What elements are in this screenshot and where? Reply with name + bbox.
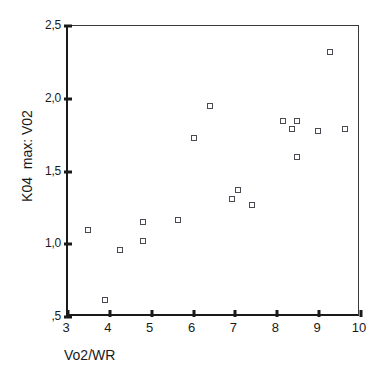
data-point <box>140 238 146 244</box>
data-point <box>175 217 181 223</box>
y-tick-label: 1,0 <box>45 236 61 250</box>
y-tick-mark <box>64 97 72 100</box>
x-tick-mark <box>108 310 111 317</box>
plot-area <box>66 25 359 316</box>
data-point <box>289 126 295 132</box>
x-tick-label: 10 <box>352 320 366 335</box>
data-point <box>140 219 146 225</box>
y-tick-label: 1,5 <box>45 164 61 178</box>
x-tick-label: 7 <box>230 320 237 335</box>
x-tick-label: 3 <box>62 320 69 335</box>
x-tick-mark <box>150 310 153 317</box>
data-point <box>294 154 300 160</box>
x-tick-mark <box>360 310 363 317</box>
x-axis-tick-labels: 345678910 <box>66 320 359 338</box>
data-point <box>249 202 255 208</box>
data-point <box>191 135 197 141</box>
scatter-plot-figure: ,51,01,52,02,5 345678910 K04 max: V02 Vo… <box>0 0 381 386</box>
x-tick-label: 5 <box>146 320 153 335</box>
y-tick-mark <box>64 170 72 173</box>
data-point <box>327 49 333 55</box>
y-axis-title: K04 max: V02 <box>19 61 35 251</box>
data-point <box>207 103 213 109</box>
data-point <box>294 118 300 124</box>
data-point <box>229 196 235 202</box>
x-tick-mark <box>276 310 279 317</box>
x-tick-mark <box>192 310 195 317</box>
x-tick-label: 6 <box>188 320 195 335</box>
x-tick-label: 4 <box>104 320 111 335</box>
data-point <box>85 227 91 233</box>
data-point <box>315 128 321 134</box>
y-tick-label: 2,5 <box>45 18 61 32</box>
x-tick-mark <box>234 310 237 317</box>
x-tick-mark <box>318 310 321 317</box>
data-point <box>280 118 286 124</box>
data-point <box>117 247 123 253</box>
data-point <box>342 126 348 132</box>
x-axis-title: Vo2/WR <box>64 347 115 363</box>
data-point <box>235 187 241 193</box>
y-tick-label: ,5 <box>51 309 61 323</box>
y-tick-label: 2,0 <box>45 91 61 105</box>
y-tick-mark <box>64 25 72 28</box>
data-point <box>102 297 108 303</box>
x-tick-mark <box>67 310 70 317</box>
x-tick-label: 8 <box>272 320 279 335</box>
x-tick-label: 9 <box>314 320 321 335</box>
y-tick-mark <box>64 243 72 246</box>
